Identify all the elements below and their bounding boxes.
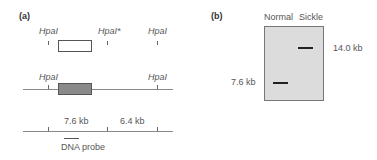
- site-tick: [157, 41, 158, 45]
- panel-a-label: (a): [19, 11, 30, 21]
- site-tick: [107, 41, 108, 45]
- band-sickle: [298, 47, 313, 49]
- site-tick: [48, 85, 49, 89]
- site-tick: [157, 127, 158, 131]
- hpai-site-label-3: HpaI: [148, 26, 167, 36]
- site-tick: [48, 127, 49, 131]
- dna-probe-bar: [64, 138, 79, 139]
- band-size-label-sickle: 14.0 kb: [333, 43, 363, 53]
- fragment-label-1: 7.6 kb: [64, 116, 89, 126]
- gene-box-filled: [58, 83, 92, 95]
- fragment-line: [23, 131, 173, 132]
- hpai-site-label-1: HpaI: [39, 26, 58, 36]
- lane-label-sickle: Sickle: [299, 12, 323, 22]
- dna-probe-label: DNA probe: [61, 142, 105, 152]
- hpai-site-label-right: HpaI: [148, 72, 167, 82]
- band-normal: [273, 82, 288, 84]
- gene-box-outline: [58, 40, 92, 52]
- site-tick: [157, 85, 158, 89]
- fragment-label-2: 6.4 kb: [120, 116, 145, 126]
- band-size-label-normal: 7.6 kb: [231, 77, 256, 87]
- panel-b-label: (b): [211, 11, 223, 21]
- site-tick: [107, 127, 108, 131]
- dna-line: [23, 89, 173, 90]
- gel: [264, 26, 324, 101]
- lane-label-normal: Normal: [264, 12, 293, 22]
- hpai-site-label-left: HpaI: [39, 72, 58, 82]
- hpai-star-site-label: HpaI*: [98, 26, 121, 36]
- site-tick: [48, 41, 49, 45]
